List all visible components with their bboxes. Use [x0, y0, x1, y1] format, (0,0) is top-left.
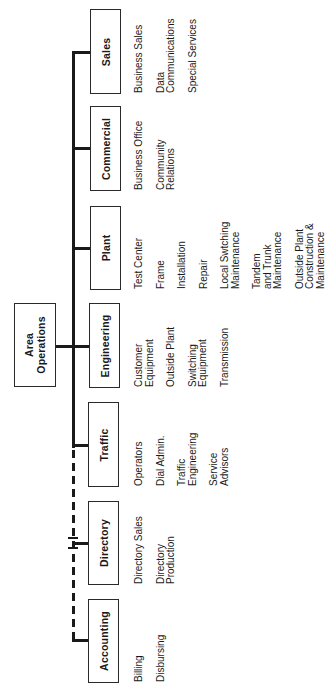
function-item: Service Advisors: [209, 366, 230, 486]
dept-box-directory: Directory: [88, 501, 119, 585]
directory-connector: [72, 542, 89, 545]
traffic-connector: [72, 444, 89, 447]
dept-label-traffic: Traffic: [98, 428, 110, 461]
accounting-connector: [72, 639, 89, 642]
sales-connector: [72, 51, 90, 54]
dept-label-sales: Sales: [100, 37, 112, 65]
engineering-connector: [72, 345, 89, 348]
function-item: Tandem and Trunk Maintenance: [252, 169, 284, 289]
dept-label-commercial: Commercial: [100, 117, 112, 179]
directory-tick-cap-bottom: [68, 547, 78, 549]
dept-box-commercial: Commercial: [90, 106, 121, 191]
spine-line-solid: [72, 52, 75, 448]
dept-box-traffic: Traffic: [88, 402, 119, 487]
dept-label-accounting: Accounting: [98, 611, 110, 671]
commercial-connector: [72, 147, 90, 150]
root-connector: [55, 345, 73, 348]
dept-box-sales: Sales: [90, 9, 121, 94]
dept-label-directory: Directory: [98, 519, 110, 567]
function-item: Outside Plant Construction & Maintenance: [295, 169, 327, 289]
dept-box-plant: Plant: [90, 206, 121, 290]
function-item: Disbursing: [156, 562, 167, 682]
root-label: Area Operations: [23, 316, 47, 373]
spine-line-dashed: [72, 450, 75, 641]
dept-label-engineering: Engineering: [99, 314, 111, 377]
dept-box-accounting: Accounting: [88, 599, 119, 683]
function-item: Billing: [134, 562, 145, 682]
plant-connector: [72, 247, 90, 250]
dept-box-engineering: Engineering: [89, 303, 120, 388]
root-box-area-operations: Area Operations: [14, 303, 56, 387]
functions-accounting: Billing Disbursing: [134, 562, 177, 682]
function-item: Special Services: [188, 0, 199, 93]
directory-tick-cap-top: [68, 537, 78, 539]
dept-label-plant: Plant: [100, 235, 112, 262]
